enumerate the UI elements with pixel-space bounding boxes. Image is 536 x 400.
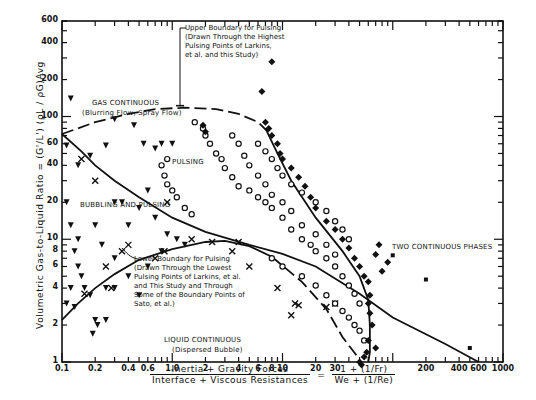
circle-marker	[207, 141, 212, 146]
diamond-marker	[351, 255, 358, 262]
formula-denominator: We + (1/Re)	[332, 375, 395, 385]
x-marker	[189, 236, 195, 242]
circle-marker	[236, 184, 241, 189]
diamond-marker	[366, 310, 373, 317]
triangle-marker	[72, 248, 78, 254]
x-axis-numerator: Inertia + Gravity Forces	[150, 364, 310, 375]
circle-marker	[242, 153, 247, 158]
circle-marker	[324, 242, 329, 247]
diamond-marker	[365, 278, 372, 285]
triangle-marker	[90, 331, 96, 337]
lower-boundary-line-dashed	[272, 257, 360, 360]
region-liquid-continuous-subtitle: (Dispersed Bubble)	[172, 346, 243, 354]
circle-marker	[313, 283, 318, 288]
triangle-marker	[141, 141, 147, 147]
upper-note-line: Upper Boundary for Pulsing	[185, 24, 284, 33]
plot-border	[62, 21, 503, 362]
triangle-marker	[68, 285, 74, 291]
equals-sign: =	[317, 370, 325, 380]
circle-marker	[230, 133, 235, 138]
circle-marker	[352, 322, 357, 327]
circle-marker	[189, 212, 194, 217]
diamond-marker	[323, 218, 330, 225]
triangle-marker	[159, 141, 165, 147]
x-tick-label: 0.1	[47, 364, 77, 373]
region-pulsing: PULSING	[172, 158, 204, 166]
circle-marker	[357, 301, 362, 306]
x-marker	[229, 248, 235, 254]
circle-marker	[263, 149, 268, 154]
diamond-marker	[295, 174, 302, 181]
x-marker	[125, 242, 131, 248]
diamond-marker	[302, 183, 309, 190]
diamond-marker	[307, 194, 314, 201]
y-tick-label: 600	[32, 15, 58, 24]
triangle-marker	[103, 317, 109, 323]
circle-marker	[346, 283, 351, 288]
diamond-marker	[258, 88, 265, 95]
circle-marker	[308, 242, 313, 247]
square-marker	[391, 253, 395, 257]
circle-marker	[222, 165, 227, 170]
x-marker	[274, 285, 280, 291]
x-marker	[103, 263, 109, 269]
circle-marker	[340, 227, 345, 232]
diamond-marker	[372, 345, 379, 352]
circle-marker	[269, 256, 274, 261]
circle-marker	[313, 232, 318, 237]
diamond-marker	[375, 241, 382, 248]
triangle-marker	[145, 187, 151, 193]
circle-marker	[263, 200, 268, 205]
triangle-marker	[112, 255, 118, 261]
annotation-leaders	[122, 28, 186, 259]
circle-marker	[165, 156, 170, 161]
formula-numerator: 1 + (1/Fr)	[332, 364, 395, 375]
square-marker	[468, 346, 472, 350]
x-marker	[78, 156, 84, 162]
circle-marker	[280, 215, 285, 220]
triangle-marker	[169, 141, 175, 147]
diamond-marker	[274, 140, 281, 147]
region-liquid-continuous: LIQUID CONTINUOUS	[164, 336, 241, 344]
triangle-marker	[125, 222, 131, 228]
triangle-marker	[99, 242, 105, 248]
triangle-marker	[103, 143, 109, 149]
upper-boundary-note: Upper Boundary for Pulsing (Drawn Throug…	[185, 24, 284, 60]
region-bubbling-and-pulsing: BUBBLING AND PULSING	[80, 201, 170, 209]
circle-marker	[182, 205, 187, 210]
diamond-marker	[312, 204, 319, 211]
triangle-marker	[92, 222, 98, 228]
circle-marker	[280, 200, 285, 205]
circle-marker	[255, 141, 260, 146]
circle-marker	[255, 173, 260, 178]
circle-marker	[174, 195, 179, 200]
circle-marker	[289, 227, 294, 232]
region-two-continuous-phases: TWO CONTINUOUS PHASES	[392, 243, 492, 251]
triangle-marker	[131, 122, 137, 128]
circle-marker	[159, 163, 164, 168]
circle-marker	[269, 205, 274, 210]
circle-marker	[280, 264, 285, 269]
diamond-marker	[339, 236, 346, 243]
upper-note-line: Pulsing Points of Larkins,	[185, 42, 284, 51]
circle-marker	[170, 188, 175, 193]
circle-marker	[255, 195, 260, 200]
circle-marker	[357, 328, 362, 333]
triangle-marker	[164, 231, 170, 237]
diamond-marker	[288, 165, 295, 172]
triangle-marker	[112, 116, 118, 122]
boundary-lines	[62, 108, 479, 362]
diamond-marker	[372, 251, 379, 258]
circle-marker	[333, 301, 338, 306]
circle-marker	[192, 120, 197, 125]
triangle-marker	[103, 285, 109, 291]
upper-note-line: (Drawn Through the Highest	[185, 33, 284, 42]
x-marker	[92, 178, 98, 184]
diamond-marker	[361, 273, 368, 280]
circle-marker	[346, 237, 351, 242]
upper-note-line: et al. and this Study)	[185, 51, 284, 60]
circle-marker	[230, 175, 235, 180]
diamond-marker	[332, 226, 339, 233]
x-axis-denominator: Interface + Viscous Resistances	[150, 375, 310, 385]
circle-marker	[162, 173, 167, 178]
